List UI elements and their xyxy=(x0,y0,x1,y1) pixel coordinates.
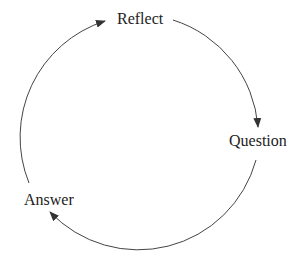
node-question: Question xyxy=(229,133,287,149)
node-answer: Answer xyxy=(24,192,74,208)
cycle-diagram: Reflect Question Answer xyxy=(0,0,300,259)
cycle-arrows xyxy=(0,0,300,259)
arrow-question-to-answer xyxy=(50,160,256,250)
arrow-answer-to-reflect xyxy=(20,21,105,183)
node-reflect: Reflect xyxy=(117,11,163,27)
arrow-reflect-to-question xyxy=(173,20,258,127)
